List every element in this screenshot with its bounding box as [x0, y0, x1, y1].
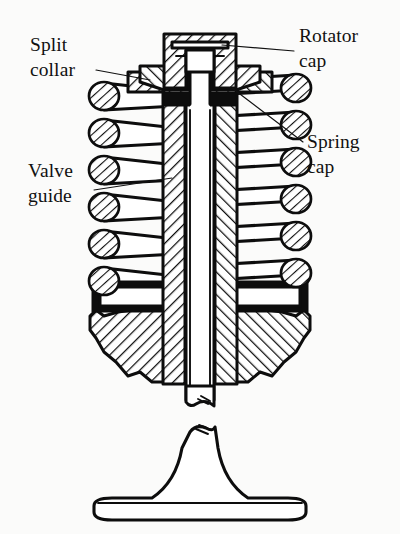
- valve-stem: [186, 60, 214, 400]
- label-spring-cap-line1: Spring: [307, 131, 360, 152]
- label-valve-guide-line2: guide: [28, 185, 72, 206]
- label-split-collar-line2: collar: [30, 59, 75, 80]
- valve-head: [94, 425, 306, 520]
- label-rotator-cap-line1: Rotator: [299, 25, 359, 46]
- label-split-collar-line1: Split: [30, 34, 68, 55]
- label-valve-guide-line1: Valve: [28, 160, 73, 181]
- stem-break-line: [186, 386, 214, 406]
- valve-assembly-diagram: Split collar Rotator cap Spring cap Valv…: [0, 0, 400, 534]
- label-spring-cap-line2: cap: [307, 156, 334, 177]
- spring-coil-ends-right: [281, 74, 311, 287]
- label-rotator-cap-line2: cap: [299, 50, 326, 71]
- figure-page: Split collar Rotator cap Spring cap Valv…: [0, 0, 400, 534]
